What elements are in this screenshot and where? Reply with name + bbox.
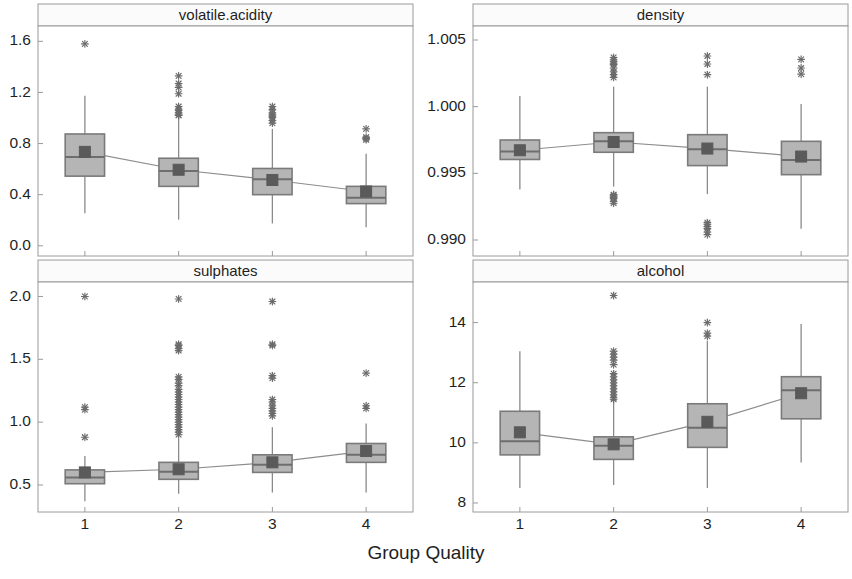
y-tick-label: 1.6 xyxy=(9,31,31,48)
y-tick-label: 1.000 xyxy=(427,97,466,114)
outlier-point xyxy=(269,120,276,127)
x-tick-label: 4 xyxy=(362,515,371,532)
outlier-point xyxy=(610,74,617,81)
x-tick-label: 2 xyxy=(174,515,183,532)
strip-title-top-right: density xyxy=(637,6,685,23)
outlier-point xyxy=(704,71,711,78)
y-tick-label: 1.005 xyxy=(427,30,466,47)
mean-marker xyxy=(702,416,713,427)
mean-marker xyxy=(796,151,807,162)
x-tick-label: 1 xyxy=(81,515,90,532)
outlier-point xyxy=(610,200,617,207)
outlier-point xyxy=(175,296,182,303)
outlier-point xyxy=(704,53,711,60)
y-tick-label: 8 xyxy=(457,493,466,510)
mean-marker xyxy=(173,464,184,475)
outlier-point xyxy=(269,342,276,349)
outlier-point xyxy=(269,412,276,419)
y-tick-label: 1.5 xyxy=(9,349,31,366)
mean-marker xyxy=(361,446,372,457)
strip-title-bottom-left: sulphates xyxy=(193,262,257,279)
mean-marker xyxy=(79,146,90,157)
mean-marker xyxy=(702,143,713,154)
strip-title-bottom-right: alcohol xyxy=(637,262,685,279)
mean-marker xyxy=(608,439,619,450)
boxplot-figure: volatile.acidity0.00.40.81.21.6density0.… xyxy=(0,0,852,579)
outlier-point xyxy=(175,72,182,79)
outlier-point xyxy=(363,405,370,412)
x-tick-label: 2 xyxy=(609,515,618,532)
panel-bottom-right: alcohol81012141234 xyxy=(449,260,848,532)
mean-marker xyxy=(267,457,278,468)
outlier-point xyxy=(610,292,617,299)
outlier-point xyxy=(704,333,711,340)
outlier-point xyxy=(81,434,88,441)
outlier-point xyxy=(704,231,711,238)
y-tick-label: 0.995 xyxy=(427,163,466,180)
outlier-point xyxy=(175,84,182,91)
y-tick-label: 10 xyxy=(449,433,467,450)
outlier-point xyxy=(610,396,617,403)
mean-marker xyxy=(361,186,372,197)
mean-marker xyxy=(173,164,184,175)
y-tick-label: 0.4 xyxy=(9,185,31,202)
outlier-point xyxy=(704,319,711,326)
outlier-point xyxy=(81,406,88,413)
outlier-point xyxy=(81,40,88,47)
outlier-point xyxy=(175,431,182,438)
y-tick-label: 2.0 xyxy=(9,287,31,304)
x-tick-label: 3 xyxy=(703,515,712,532)
outlier-point xyxy=(175,112,182,119)
mean-marker xyxy=(514,427,525,438)
outlier-point xyxy=(363,136,370,143)
x-axis-label: Group Quality xyxy=(367,542,485,563)
panel-bottom-left: sulphates0.51.01.52.01234 xyxy=(9,260,413,532)
y-tick-label: 14 xyxy=(449,313,467,330)
y-tick-label: 1.0 xyxy=(9,412,31,429)
outlier-point xyxy=(704,61,711,68)
mean-marker xyxy=(608,137,619,148)
mean-marker xyxy=(796,388,807,399)
outlier-point xyxy=(175,90,182,97)
outlier-point xyxy=(610,361,617,368)
y-tick-label: 0.5 xyxy=(9,475,31,492)
y-tick-label: 0.8 xyxy=(9,134,31,151)
y-tick-label: 12 xyxy=(449,373,466,390)
outlier-point xyxy=(798,71,805,78)
mean-marker xyxy=(514,145,525,156)
x-tick-label: 1 xyxy=(516,515,525,532)
outlier-point xyxy=(798,56,805,63)
panel-top-left: volatile.acidity0.00.40.81.21.6 xyxy=(9,4,413,256)
mean-marker xyxy=(79,467,90,478)
outlier-point xyxy=(269,298,276,305)
outlier-point xyxy=(363,125,370,132)
outlier-point xyxy=(81,293,88,300)
panel-top-right: density0.9900.9951.0001.005 xyxy=(427,4,848,256)
plot-canvas: volatile.acidity0.00.40.81.21.6density0.… xyxy=(0,0,852,579)
strip-title-top-left: volatile.acidity xyxy=(179,6,273,23)
outlier-point xyxy=(363,370,370,377)
y-tick-label: 0.0 xyxy=(9,236,31,253)
outlier-point xyxy=(175,347,182,354)
mean-marker xyxy=(267,174,278,185)
x-tick-label: 3 xyxy=(268,515,277,532)
outlier-point xyxy=(269,375,276,382)
y-tick-label: 1.2 xyxy=(9,83,31,100)
x-tick-label: 4 xyxy=(797,515,806,532)
y-tick-label: 0.990 xyxy=(427,230,466,247)
